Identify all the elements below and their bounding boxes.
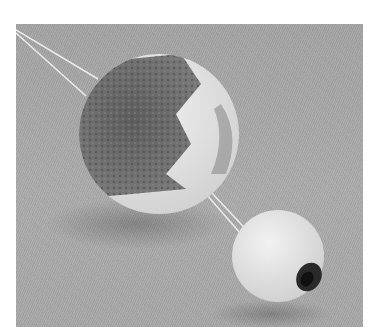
large-pompom — [76, 49, 246, 219]
pompom-photo — [16, 24, 363, 327]
string — [16, 30, 98, 79]
pompom-illustration — [16, 24, 363, 327]
small-pompom — [232, 210, 327, 302]
string — [16, 33, 86, 96]
